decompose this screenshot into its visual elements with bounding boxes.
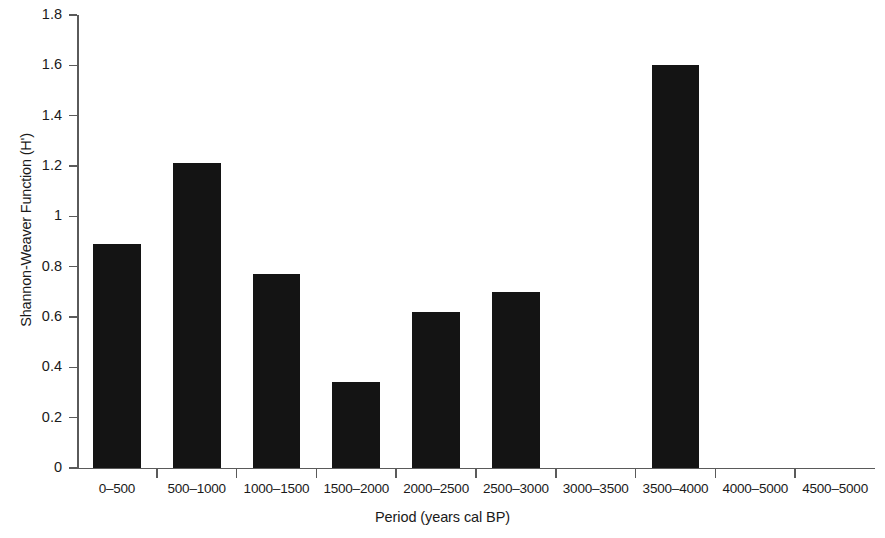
bar-chart-figure: Shannon-Weaver Function (H') 00.20.40.60… [0, 0, 885, 538]
bar [332, 382, 380, 468]
x-axis-tick-label: 1000–1500 [237, 481, 317, 496]
y-axis-tick [69, 216, 77, 218]
y-axis-tick-label: 1.2 [2, 158, 62, 173]
x-axis-tick-label: 1500–2000 [316, 481, 396, 496]
x-axis-tick [475, 469, 477, 478]
bar [173, 163, 221, 468]
y-axis-tick-label: 1 [2, 208, 62, 223]
x-axis-tick [316, 469, 318, 478]
x-axis-tick-label: 0–500 [77, 481, 157, 496]
bar [253, 274, 301, 468]
bar [93, 244, 141, 468]
bar [652, 65, 700, 468]
y-axis-tick [69, 467, 77, 469]
x-axis-title: Period (years cal BP) [0, 509, 885, 525]
y-axis-tick [69, 65, 77, 67]
y-axis-tick-label: 0.4 [2, 359, 62, 374]
y-axis-tick [69, 316, 77, 318]
y-axis-tick-label: 1.6 [2, 57, 62, 72]
x-axis-tick [715, 469, 717, 478]
x-axis-tick [156, 469, 158, 478]
y-axis-tick-label: 0.6 [2, 309, 62, 324]
x-axis-tick-label: 2500–3000 [476, 481, 556, 496]
y-axis-tick-label: 0 [2, 460, 62, 475]
bar [492, 292, 540, 468]
x-axis-tick [395, 469, 397, 478]
x-axis-tick-label: 2000–2500 [396, 481, 476, 496]
y-axis-line [77, 15, 79, 469]
x-axis-tick [236, 469, 238, 478]
x-axis-tick-label: 4000–5000 [715, 481, 795, 496]
y-axis-tick [69, 417, 77, 419]
y-axis-tick [69, 14, 77, 16]
x-axis-tick-label: 3000–3500 [556, 481, 636, 496]
x-axis-tick-label: 500–1000 [157, 481, 237, 496]
y-axis-tick-label: 0.2 [2, 410, 62, 425]
x-axis-tick [635, 469, 637, 478]
y-axis-tick-label: 0.8 [2, 259, 62, 274]
y-axis-tick [69, 367, 77, 369]
bar [412, 312, 460, 468]
y-axis-tick [69, 266, 77, 268]
x-axis-tick [555, 469, 557, 478]
y-axis-tick [69, 165, 77, 167]
plot-area: 00.20.40.60.811.21.41.61.8 0–500500–1000… [0, 0, 885, 538]
x-axis-tick [794, 469, 796, 478]
y-axis-tick [69, 115, 77, 117]
x-axis-tick-label: 4500–5000 [795, 481, 875, 496]
y-axis-tick-label: 1.8 [2, 7, 62, 22]
y-axis-tick-label: 1.4 [2, 108, 62, 123]
x-axis-tick-label: 3500–4000 [636, 481, 716, 496]
